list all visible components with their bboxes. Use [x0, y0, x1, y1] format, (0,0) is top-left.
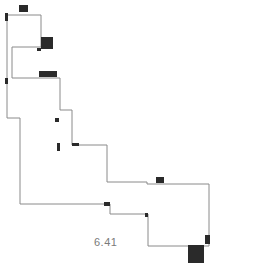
wall-marker: [188, 245, 204, 263]
wall-marker: [104, 202, 110, 206]
wall-marker: [57, 143, 60, 151]
wall-marker: [72, 143, 79, 146]
area-label: 6.41: [94, 236, 117, 248]
wall-marker: [5, 78, 8, 84]
wall-marker: [205, 235, 210, 244]
wall-marker: [37, 48, 41, 51]
wall-marker: [5, 13, 8, 21]
wall-marker: [41, 37, 53, 49]
wall-marker: [55, 118, 59, 122]
wall-marker: [145, 213, 148, 217]
wall-marker: [19, 5, 28, 12]
wall-marker: [156, 177, 164, 183]
floor-plan-diagram: [0, 0, 254, 270]
wall-marker: [39, 71, 57, 77]
wall-markers: [5, 5, 210, 263]
